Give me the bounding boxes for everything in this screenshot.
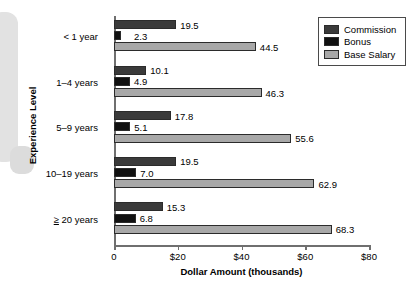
x-tick-label-3: $60 <box>297 251 313 262</box>
legend-label-2: Base Salary <box>344 49 395 60</box>
bar-commission-3 <box>114 157 176 166</box>
legend-swatch-icon-2 <box>324 50 339 59</box>
legend-label-1: Bonus <box>344 36 371 47</box>
bar-base-salary-0 <box>114 42 256 51</box>
x-tick-label-2: $40 <box>234 251 250 262</box>
bar-bonus-2 <box>114 122 130 131</box>
legend-item-bonus[interactable]: Bonus <box>324 36 401 47</box>
bar-commission-4 <box>114 202 163 211</box>
bar-base-salary-3 <box>114 179 314 188</box>
category-label-2: 5–9 years <box>0 122 104 133</box>
bar-value-bonus-0: 2.3 <box>134 32 147 41</box>
x-axis-title: Dollar Amount (thousands) <box>114 266 369 277</box>
x-tick-label-1: $20 <box>170 251 186 262</box>
bar-value-commission-2: 17.8 <box>175 112 194 121</box>
bar-base-salary-2 <box>114 134 291 143</box>
bar-value-commission-0: 19.5 <box>180 21 199 30</box>
grouped-bar-chart: 0$20$40$60$80 Dollar Amount (thousands) … <box>0 0 414 288</box>
bar-value-commission-4: 15.3 <box>167 203 186 212</box>
x-tick-label-4: $80 <box>361 251 377 262</box>
legend: CommissionBonusBase Salary <box>318 17 406 66</box>
legend-item-base-salary[interactable]: Base Salary <box>324 49 401 60</box>
category-label-1: 1–4 years <box>0 77 104 88</box>
bar-value-bonus-4: 6.8 <box>140 214 153 223</box>
bar-commission-1 <box>114 66 146 75</box>
category-label-3: 10–19 years <box>0 168 104 179</box>
bar-bonus-1 <box>114 77 130 86</box>
bar-value-base-salary-3: 62.9 <box>318 180 337 189</box>
bar-base-salary-4 <box>114 225 332 234</box>
bar-value-base-salary-2: 55.6 <box>295 134 314 143</box>
legend-label-0: Commission <box>344 24 396 35</box>
x-tick-label-0: 0 <box>111 251 116 262</box>
legend-swatch-icon-0 <box>324 25 339 34</box>
bar-value-bonus-3: 7.0 <box>140 169 153 178</box>
legend-swatch-icon-1 <box>324 37 339 46</box>
bar-value-base-salary-4: 68.3 <box>336 225 355 234</box>
bar-bonus-0 <box>114 31 121 40</box>
bar-value-base-salary-0: 44.5 <box>260 43 279 52</box>
bar-value-commission-3: 19.5 <box>180 157 199 166</box>
category-label-0: < 1 year <box>0 31 104 42</box>
bar-base-salary-1 <box>114 88 262 97</box>
bar-value-commission-1: 10.1 <box>150 66 169 75</box>
bar-value-base-salary-1: 46.3 <box>266 89 285 98</box>
bar-commission-2 <box>114 111 171 120</box>
bar-commission-0 <box>114 20 176 29</box>
bar-value-bonus-1: 4.9 <box>134 77 147 86</box>
bar-bonus-3 <box>114 168 136 177</box>
category-label-4: ≥ 20 years <box>0 214 104 225</box>
bar-bonus-4 <box>114 214 136 223</box>
legend-item-commission[interactable]: Commission <box>324 24 401 35</box>
bar-value-bonus-2: 5.1 <box>134 123 147 132</box>
